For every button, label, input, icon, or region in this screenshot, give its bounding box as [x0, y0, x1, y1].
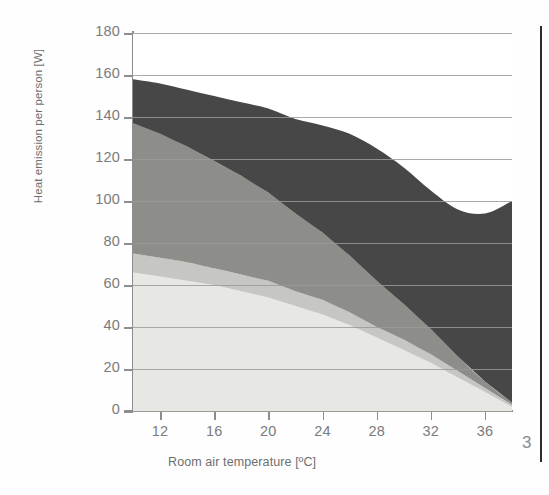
gridline-y-160 — [133, 75, 512, 76]
gridline-y-0 — [133, 411, 512, 412]
page-number: 3 — [522, 433, 531, 453]
y-tick-label-40: 40 — [74, 317, 120, 333]
x-tick-label-20: 20 — [248, 423, 288, 439]
y-tick-label-60: 60 — [74, 275, 120, 291]
y-tick-label-100: 100 — [74, 191, 120, 207]
gridlines — [133, 33, 512, 411]
x-tick-label-12: 12 — [140, 423, 180, 439]
plot-area — [133, 33, 512, 411]
y-tick-mark-0 — [124, 411, 133, 413]
gridline-y-100 — [133, 201, 512, 202]
y-tick-label-140: 140 — [74, 107, 120, 123]
y-tick-label-0: 0 — [74, 401, 120, 417]
page-canvas: Heat emission per person [W] 02040608010… — [0, 0, 549, 495]
x-tick-label-28: 28 — [357, 423, 397, 439]
y-tick-label-80: 80 — [74, 233, 120, 249]
x-tick-label-36: 36 — [465, 423, 505, 439]
y-tick-mark-80 — [124, 243, 133, 245]
x-tick-mark-28 — [377, 411, 379, 420]
gridline-y-120 — [133, 159, 512, 160]
gridline-y-20 — [133, 369, 512, 370]
y-tick-mark-100 — [124, 201, 133, 203]
page-binding-rule — [540, 26, 542, 462]
gridline-y-60 — [133, 285, 512, 286]
y-tick-label-180: 180 — [74, 23, 120, 39]
x-tick-mark-12 — [160, 411, 162, 420]
y-tick-mark-40 — [124, 327, 133, 329]
y-tick-mark-120 — [124, 159, 133, 161]
y-tick-label-120: 120 — [74, 149, 120, 165]
x-tick-mark-36 — [485, 411, 487, 420]
y-tick-mark-20 — [124, 369, 133, 371]
gridline-y-180 — [133, 33, 512, 34]
x-tick-mark-32 — [431, 411, 433, 420]
y-tick-label-20: 20 — [74, 359, 120, 375]
x-tick-label-16: 16 — [194, 423, 234, 439]
y-tick-mark-180 — [124, 33, 133, 35]
y-tick-label-160: 160 — [74, 65, 120, 81]
x-tick-label-32: 32 — [411, 423, 451, 439]
y-tick-mark-60 — [124, 285, 133, 287]
y-axis-title: Heat emission per person [W] — [32, 16, 44, 236]
gridline-y-40 — [133, 327, 512, 328]
gridline-y-140 — [133, 117, 512, 118]
x-tick-mark-20 — [268, 411, 270, 420]
gridline-y-80 — [133, 243, 512, 244]
x-axis-title: Room air temperature [ºC] — [168, 455, 316, 469]
y-tick-mark-140 — [124, 117, 133, 119]
x-tick-mark-24 — [323, 411, 325, 420]
x-tick-label-24: 24 — [303, 423, 343, 439]
x-tick-mark-16 — [214, 411, 216, 420]
y-tick-mark-160 — [124, 75, 133, 77]
